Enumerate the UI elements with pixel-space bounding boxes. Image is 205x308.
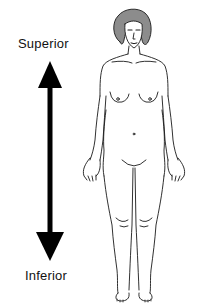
left-hand bbox=[83, 158, 100, 181]
right-hand bbox=[168, 158, 185, 181]
female-figure bbox=[83, 9, 184, 302]
arrow-head-down-icon bbox=[36, 232, 64, 261]
feet bbox=[116, 293, 152, 301]
superior-inferior-arrow bbox=[36, 61, 64, 261]
diagram-canvas bbox=[0, 0, 205, 308]
arrow-head-up-icon bbox=[38, 61, 62, 88]
arrow-shaft bbox=[48, 86, 53, 234]
torso bbox=[100, 54, 168, 96]
legs bbox=[104, 168, 164, 293]
